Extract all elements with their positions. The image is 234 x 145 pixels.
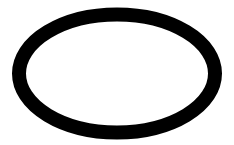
- ellipse-outline-svg: Black outlined ellipse on a white backgr…: [0, 0, 234, 145]
- canvas-background: [0, 0, 234, 145]
- drawing-canvas: Black outlined ellipse on a white backgr…: [0, 0, 234, 145]
